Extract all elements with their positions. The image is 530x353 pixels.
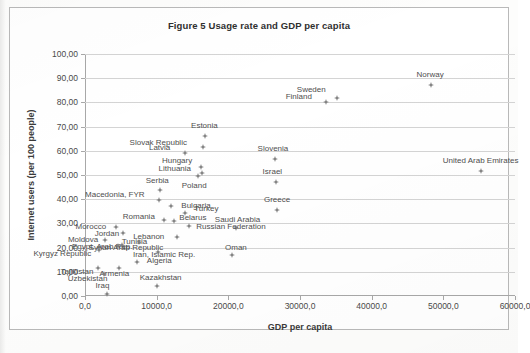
y-tick-mark	[81, 223, 85, 224]
data-point-marker[interactable]	[182, 210, 188, 216]
x-axis-title: GDP per capita	[85, 322, 515, 332]
data-point-label: United Arab Emirates	[443, 155, 519, 164]
chart-title: Figure 5 Usage rate and GDP per capita	[10, 20, 508, 31]
data-point-label: Hungary	[162, 155, 192, 164]
data-point-label: Poland	[182, 181, 207, 190]
data-point-marker[interactable]	[428, 82, 434, 88]
data-point-label: Iraq	[96, 280, 110, 289]
data-point-marker[interactable]	[102, 237, 108, 243]
data-point-marker[interactable]	[161, 217, 167, 223]
data-point-marker[interactable]	[154, 283, 160, 289]
y-tick-label: 70,00	[57, 122, 78, 132]
gridline-horizontal	[85, 223, 515, 224]
x-tick-mark	[515, 296, 516, 300]
gridline-horizontal	[85, 102, 515, 103]
y-tick-mark	[81, 175, 85, 176]
x-tick-label: 40000,0	[356, 301, 387, 311]
data-point-marker[interactable]	[272, 156, 278, 162]
gridline-horizontal	[85, 248, 515, 249]
y-tick-label: 60,00	[57, 146, 78, 156]
data-point-marker[interactable]	[229, 252, 235, 258]
x-tick-label: 10000,0	[141, 301, 172, 311]
x-tick-label: 20000,0	[213, 301, 244, 311]
x-tick-label: 60000,0	[500, 301, 530, 311]
data-point-label: Lithuania	[159, 163, 191, 172]
data-point-label: Saudi Arabia	[215, 215, 260, 224]
data-point-marker[interactable]	[233, 225, 239, 231]
data-point-marker[interactable]	[96, 247, 102, 253]
data-point-marker[interactable]	[134, 259, 140, 265]
chart-figure: Figure 5 Usage rate and GDP per capita I…	[9, 7, 509, 330]
y-tick-label: 40,00	[57, 194, 78, 204]
gridline-horizontal	[85, 272, 515, 273]
x-tick-mark	[157, 296, 158, 300]
data-point-marker[interactable]	[478, 168, 484, 174]
y-axis-title-text: Internet users (per 100 people)	[26, 109, 36, 240]
x-tick-mark	[443, 296, 444, 300]
data-point-marker[interactable]	[182, 150, 188, 156]
data-point-label: Estonia	[191, 121, 218, 130]
data-point-marker[interactable]	[186, 223, 192, 229]
data-point-marker[interactable]	[171, 218, 177, 224]
data-point-marker[interactable]	[120, 230, 126, 236]
data-point-marker[interactable]	[174, 234, 180, 240]
gridline-horizontal	[85, 175, 515, 176]
x-tick-mark	[300, 296, 301, 300]
data-point-label: Turkey	[194, 203, 218, 212]
y-axis-title: Internet users (per 100 people)	[24, 54, 38, 296]
y-tick-mark	[81, 102, 85, 103]
x-tick-mark	[372, 296, 373, 300]
data-point-label: Iran, Islamic Rep.	[133, 250, 195, 259]
y-tick-mark	[81, 151, 85, 152]
y-tick-mark	[81, 199, 85, 200]
y-tick-label: 10,00	[57, 267, 78, 277]
data-point-marker[interactable]	[115, 243, 121, 249]
data-point-marker[interactable]	[202, 133, 208, 139]
y-tick-mark	[81, 78, 85, 79]
x-tick-mark	[85, 296, 86, 300]
data-point-marker[interactable]	[273, 179, 279, 185]
data-point-label: Tunisia	[122, 236, 148, 245]
data-point-marker[interactable]	[156, 197, 162, 203]
data-point-marker[interactable]	[116, 265, 122, 271]
data-point-marker[interactable]	[274, 207, 280, 213]
data-point-label: Finland	[286, 92, 312, 101]
data-point-label: Macedonia, FYR	[85, 190, 145, 199]
data-point-label: Romania	[123, 211, 155, 220]
y-tick-label: 80,00	[57, 97, 78, 107]
data-point-marker[interactable]	[113, 224, 119, 230]
y-tick-label: 50,00	[57, 170, 78, 180]
data-point-marker[interactable]	[168, 203, 174, 209]
y-tick-mark	[81, 272, 85, 273]
data-point-marker[interactable]	[104, 291, 110, 297]
y-tick-label: 30,00	[57, 218, 78, 228]
data-point-marker[interactable]	[200, 144, 206, 150]
y-tick-label: 90,00	[57, 73, 78, 83]
y-tick-mark	[81, 127, 85, 128]
gridline-horizontal	[85, 127, 515, 128]
y-tick-mark	[81, 248, 85, 249]
gridline-horizontal	[85, 199, 515, 200]
data-point-marker[interactable]	[334, 95, 340, 101]
x-tick-mark	[228, 296, 229, 300]
x-tick-label: 0,0	[79, 301, 91, 311]
page-edge-shading	[0, 0, 6, 353]
y-tick-label: 20,00	[57, 243, 78, 253]
plot-area: 0,0010,0020,0030,0040,0050,0060,0070,008…	[85, 54, 515, 296]
x-tick-label: 50000,0	[428, 301, 459, 311]
data-point-marker[interactable]	[323, 99, 329, 105]
data-point-marker[interactable]	[101, 271, 107, 277]
data-point-label: Sweden	[297, 84, 326, 93]
data-point-marker[interactable]	[195, 173, 201, 179]
data-point-marker[interactable]	[157, 187, 163, 193]
gridline-horizontal	[85, 54, 515, 55]
data-point-label: Kazakhstan	[140, 273, 182, 282]
y-tick-label: 0,00	[61, 291, 78, 301]
data-point-label: Slovak Republic	[130, 138, 187, 147]
data-point-marker[interactable]	[136, 239, 142, 245]
y-tick-mark	[81, 54, 85, 55]
data-point-label: Algeria	[147, 256, 172, 265]
data-point-marker[interactable]	[155, 249, 161, 255]
x-tick-label: 30000,0	[285, 301, 316, 311]
